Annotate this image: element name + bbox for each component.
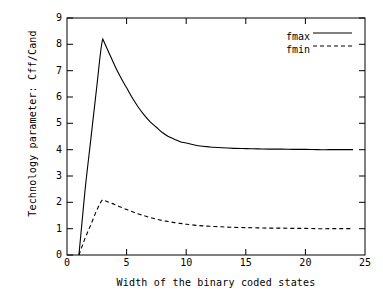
- chart-figure: Technology parameter: Cff/Cand Width of …: [0, 0, 383, 298]
- y-axis-ticks: [67, 18, 365, 255]
- plot-frame: [67, 18, 365, 255]
- series-fmax: [79, 39, 353, 255]
- plot-canvas: [0, 0, 383, 298]
- x-axis-ticks: [127, 18, 306, 255]
- series-fmin: [79, 200, 353, 255]
